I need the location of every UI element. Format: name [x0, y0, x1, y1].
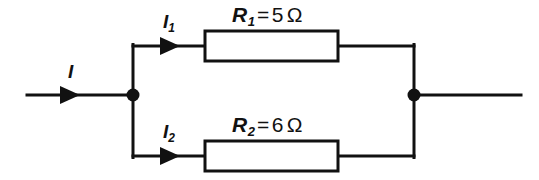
resistor-2-unit: Ω — [284, 113, 303, 136]
branch2-current-arrow-icon — [160, 147, 180, 165]
branch2-current-subscript: 2 — [168, 131, 175, 145]
branch1-current-subscript: 1 — [168, 21, 175, 35]
resistor-1-body — [205, 31, 338, 61]
resistor-2-body — [205, 141, 338, 171]
resistor-1-equals: = — [255, 3, 272, 26]
right-junction-node — [408, 89, 421, 102]
resistor-2-value: 6 — [272, 113, 284, 136]
resistor-1-symbol: R — [232, 3, 248, 26]
resistor-2-subscript: 2 — [248, 124, 255, 139]
resistor-1-value: 5 — [272, 3, 284, 26]
left-junction-node — [127, 89, 140, 102]
branch2-current-label: I2 — [163, 122, 175, 144]
input-current-label: I — [68, 62, 73, 81]
input-current-arrow-icon — [60, 86, 80, 104]
circuit-diagram: R1=5Ω R2=6Ω I I1 I2 — [0, 0, 539, 180]
input-current-symbol: I — [68, 61, 73, 82]
branch1-current-arrow-icon — [160, 37, 180, 55]
resistor-2-symbol: R — [232, 113, 248, 136]
resistor-1-label: R1=5Ω — [232, 4, 303, 28]
resistor-2-equals: = — [255, 113, 272, 136]
resistor-2-label: R2=6Ω — [232, 114, 303, 138]
branch1-current-label: I1 — [163, 12, 175, 34]
resistor-1-unit: Ω — [284, 3, 303, 26]
resistor-1-subscript: 1 — [248, 14, 255, 29]
